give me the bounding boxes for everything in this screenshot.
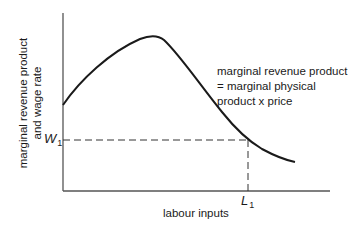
- y-axis-label-line1: marginal revenue product: [16, 38, 30, 168]
- y-axis-label: marginal revenue product and wage rate: [16, 38, 44, 168]
- curve-label-line1: marginal revenue product: [217, 64, 347, 79]
- w1-subscript: 1: [57, 138, 62, 148]
- y-axis-label-line2: and wage rate: [30, 38, 44, 168]
- curve-label: marginal revenue product = marginal phys…: [217, 64, 347, 109]
- l1-subscript: 1: [249, 200, 254, 210]
- diagram-canvas: [0, 0, 351, 229]
- curve-label-line3: product x price: [217, 94, 347, 109]
- x-axis-label: labour inputs: [163, 206, 229, 221]
- l1-marker: L1: [241, 193, 254, 210]
- l1-letter: L: [241, 193, 248, 208]
- w1-marker: W1: [44, 131, 62, 148]
- w1-letter: W: [44, 131, 56, 146]
- curve-label-line2: = marginal physical: [217, 79, 347, 94]
